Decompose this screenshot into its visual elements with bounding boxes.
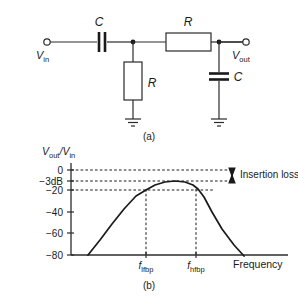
shunt-resistor-label: R	[148, 76, 157, 90]
panel-b-plot: 0 −3dB −20 −40 −60 −80 Vout/Vin flfb	[39, 145, 298, 291]
series-resistor-label: R	[184, 15, 193, 29]
x-tick-label-upper-cutoff-sub: hfbp	[190, 265, 205, 274]
shunt-capacitor-symbol	[209, 74, 229, 80]
y-tick-label-minus60: −60	[46, 228, 63, 239]
x-tick-label-upper-cutoff: fhfbp	[187, 260, 204, 274]
input-port-label: Vin	[36, 49, 49, 64]
x-tick-label-lower-cutoff: flfbp	[139, 260, 154, 274]
shunt-resistor-symbol	[124, 62, 142, 100]
output-port-label-sub: out	[239, 55, 250, 64]
panel-a-caption: (a)	[143, 131, 155, 142]
series-resistor-symbol	[166, 33, 211, 51]
shunt-capacitor-label: C	[234, 70, 243, 84]
y-tick-label-minus40: −40	[46, 207, 63, 218]
ground-symbol-left	[125, 119, 141, 126]
series-capacitor-label: C	[95, 15, 104, 29]
ground-symbol-right	[211, 119, 227, 126]
x-axis-title: Frequency	[233, 258, 283, 270]
output-port-label: Vout	[232, 49, 251, 64]
y-axis-title: Vout/Vin	[42, 145, 75, 160]
output-terminal-icon	[243, 39, 249, 45]
y-tick-label-minus20: −20	[46, 185, 63, 196]
x-tick-label-lower-cutoff-sub: lfbp	[141, 265, 153, 274]
response-curve	[88, 181, 244, 256]
figure-canvas: C R R C Vin Vout (a)	[0, 0, 298, 301]
panel-a-circuit: C R R C Vin Vout (a)	[36, 15, 251, 142]
insertion-loss-annotation: Insertion loss	[240, 169, 298, 180]
figure-root: C R R C Vin Vout (a)	[0, 0, 298, 301]
insertion-loss-arrow-icon	[229, 168, 235, 183]
series-capacitor-symbol	[99, 32, 105, 52]
y-tick-label-minus80: −80	[46, 250, 63, 261]
input-terminal-icon	[44, 39, 50, 45]
y-axis-title-denominator-sub: in	[69, 151, 75, 160]
y-tick-label-0: 0	[57, 165, 63, 176]
input-port-label-sub: in	[43, 55, 49, 64]
panel-b-caption: (b)	[143, 280, 155, 291]
